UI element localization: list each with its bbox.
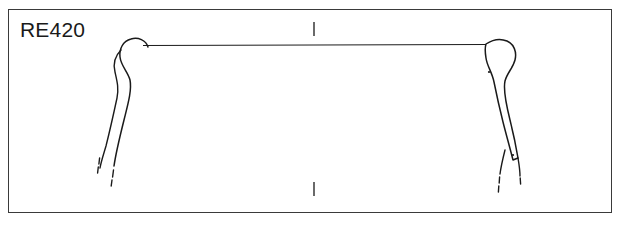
right-rim-outline — [485, 40, 518, 160]
break-mark-2 — [98, 167, 99, 173]
inclusion-dot-lower — [512, 154, 514, 156]
right-inner-break-marks — [498, 177, 499, 192]
left-rim-section — [98, 38, 148, 186]
right-inner-tail — [500, 150, 505, 174]
break-mark-1 — [113, 170, 114, 177]
break-mark-2 — [111, 180, 112, 186]
right-outer-tail — [518, 158, 520, 176]
left-inner-edge — [100, 50, 121, 168]
figure-root: RE420 — [0, 0, 626, 232]
rim-diameter-line — [143, 45, 486, 46]
vessel-profile-drawing — [0, 0, 626, 232]
break-mark-1 — [99, 158, 100, 164]
right-rim-section — [485, 40, 520, 192]
left-inner-break-marks — [98, 158, 100, 173]
inclusion-dot-upper — [488, 71, 490, 73]
left-outer-edge — [114, 38, 148, 166]
left-outer-break-marks — [111, 170, 113, 186]
